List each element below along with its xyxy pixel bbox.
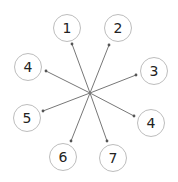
node-circle-7: 7	[99, 144, 127, 172]
node-circle-4-lower-right: 4	[137, 109, 165, 137]
node-label: 5	[23, 111, 32, 125]
spoke-arrows	[0, 0, 178, 182]
spoke-arrow-2	[90, 45, 109, 93]
spoke-arrow-7	[71, 93, 90, 141]
node-circle-1: 1	[53, 14, 81, 42]
node-label: 1	[63, 21, 72, 35]
node-label: 6	[59, 150, 68, 164]
node-circle-3: 3	[140, 57, 168, 85]
node-circle-5: 5	[13, 104, 41, 132]
node-circle-6: 6	[49, 143, 77, 171]
hub-spoke-diagram: 1 2 4 3 5 4 6 7	[0, 0, 178, 182]
spoke-arrow-4	[90, 75, 136, 93]
node-label: 2	[114, 21, 123, 35]
node-circle-4-upper-left: 4	[14, 53, 42, 81]
node-label: 3	[150, 64, 159, 78]
node-label: 4	[24, 60, 33, 74]
node-label: 7	[109, 151, 118, 165]
node-circle-2: 2	[104, 14, 132, 42]
spoke-arrow-5	[43, 93, 90, 111]
node-label: 4	[147, 116, 156, 130]
